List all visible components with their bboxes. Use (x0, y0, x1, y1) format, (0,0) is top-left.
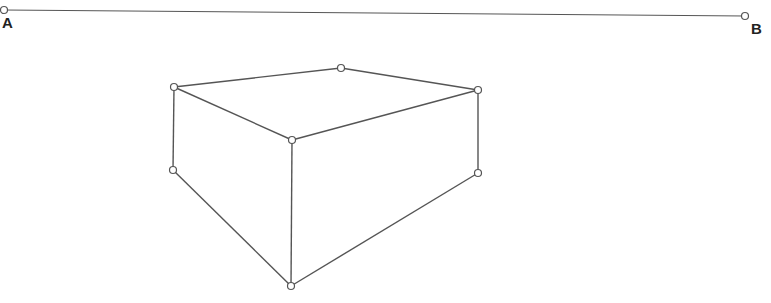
segment-top-left-left-bottom (173, 87, 174, 170)
segment-top-left-top-back (174, 68, 341, 87)
point-top-back[interactable] (338, 65, 345, 72)
point-top-left[interactable] (171, 84, 178, 91)
point-top-right[interactable] (475, 87, 482, 94)
point-a[interactable] (1, 7, 8, 14)
point-front-bottom[interactable] (288, 283, 295, 290)
point-right-bottom[interactable] (475, 170, 482, 177)
segment-top-left-front-top (174, 87, 292, 140)
perspective-diagram (0, 0, 771, 303)
point-label-b: B (751, 20, 762, 37)
segment-front-top-top-right (292, 90, 478, 140)
point-left-bottom[interactable] (170, 167, 177, 174)
point-b[interactable] (742, 13, 749, 20)
segment-front-top-front-bottom (291, 140, 292, 286)
segment-top-back-top-right (341, 68, 478, 90)
point-label-a: A (2, 14, 13, 31)
point-front-top[interactable] (289, 137, 296, 144)
segment-right-bottom-front-bottom (291, 173, 478, 286)
segment-left-bottom-front-bottom (173, 170, 291, 286)
segment-A-B (4, 10, 745, 16)
